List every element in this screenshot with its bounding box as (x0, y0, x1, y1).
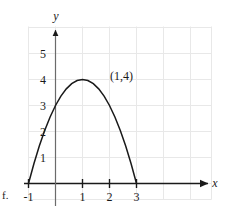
y-tick-label-1: 1 (40, 151, 46, 165)
y-axis-label: y (52, 9, 59, 23)
y-tick-label-5: 5 (40, 47, 46, 61)
x-tick-label-neg1: -1 (24, 190, 34, 204)
y-tick-label-4: 4 (40, 73, 46, 87)
problem-part-label: f. (2, 190, 8, 201)
x-tick-label-1: 1 (80, 190, 86, 204)
vertex-annotation: (1,4) (110, 69, 133, 83)
x-axis-label: x (211, 176, 218, 190)
y-tick-label-2: 2 (40, 125, 46, 139)
x-tick-label-2: 2 (107, 190, 113, 204)
parabola-graph: 5 4 3 2 1 -1 1 2 3 x y (1,4) (0, 0, 231, 214)
y-tick-label-3: 3 (40, 99, 46, 113)
x-tick-label-3: 3 (134, 190, 140, 204)
